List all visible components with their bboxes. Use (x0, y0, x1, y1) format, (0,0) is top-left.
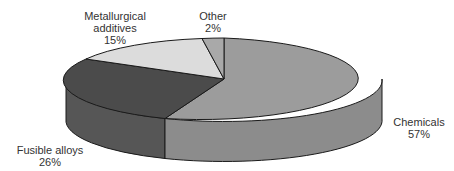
label-other-name: Other (193, 10, 233, 22)
label-metallurgical-pct: 15% (80, 34, 150, 46)
label-chemicals-name: Chemicals (385, 116, 453, 128)
label-metallurgical-line1: Metallurgical (80, 10, 150, 22)
label-fusible-pct: 26% (10, 156, 90, 168)
label-other-pct: 2% (193, 22, 233, 34)
label-metallurgical-additives: Metallurgical additives 15% (80, 10, 150, 46)
label-fusible-name: Fusible alloys (10, 144, 90, 156)
label-metallurgical-line2: additives (80, 22, 150, 34)
label-other: Other 2% (193, 10, 233, 34)
label-chemicals-pct: 57% (385, 128, 453, 140)
label-fusible-alloys: Fusible alloys 26% (10, 144, 90, 168)
label-chemicals: Chemicals 57% (385, 116, 453, 140)
